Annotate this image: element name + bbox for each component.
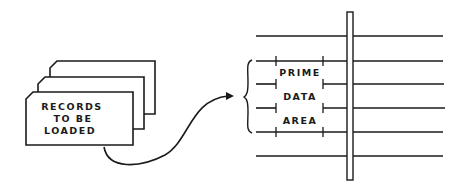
prime-area-label-2: DATA: [283, 91, 317, 102]
records-label-line-1: RECORDS: [41, 101, 102, 112]
prime-area-label-3: AREA: [283, 115, 318, 126]
prime-area-label-1: PRIME: [279, 67, 320, 78]
load-prime-data-diagram: RECORDS TO BE LOADED PRIME DATA AREA: [0, 0, 466, 193]
records-label-line-3: LOADED: [44, 125, 96, 136]
vertical-bar: [347, 12, 353, 180]
arrowhead-icon: [226, 92, 234, 100]
prime-area-brace: [244, 60, 252, 133]
records-label-line-2: TO BE: [53, 113, 92, 124]
